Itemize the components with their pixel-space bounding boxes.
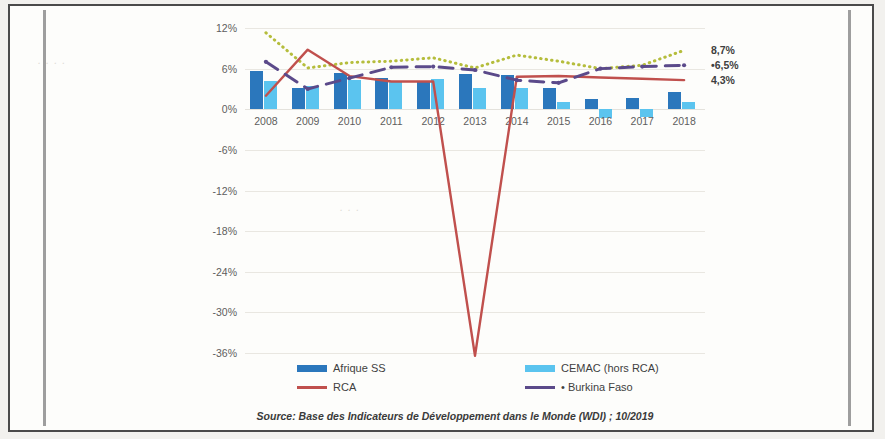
line-marker bbox=[515, 78, 519, 82]
y-axis-tick-label: -18% bbox=[212, 225, 237, 237]
y-axis-tick-label: -12% bbox=[212, 185, 237, 197]
line-marker bbox=[557, 81, 561, 85]
legend-item: CEMAC (hors RCA) bbox=[525, 362, 659, 374]
legend-item: • Burkina Faso bbox=[525, 381, 633, 393]
legend-item: RCA bbox=[297, 381, 356, 393]
data-label-tendance: 8,7% bbox=[711, 44, 735, 56]
y-axis-tick-label: -30% bbox=[212, 306, 237, 318]
line-marker bbox=[347, 76, 351, 80]
chart-legend: Afrique SSCEMAC (hors RCA)RCA• Burkina F… bbox=[297, 362, 727, 398]
data-label-rca: 4,3% bbox=[711, 74, 735, 86]
scanned-page-frame: . . . . . . . 12%6%0%-6%-12%-18%-24%-30%… bbox=[8, 4, 874, 432]
line-marker bbox=[389, 65, 393, 69]
y-axis-tick-label: 0% bbox=[222, 103, 237, 115]
y-axis-tick-label: -36% bbox=[212, 347, 237, 359]
page-binding-line-left bbox=[43, 10, 46, 426]
y-axis-tick-label: -24% bbox=[212, 266, 237, 278]
data-label-burkina-faso: •6,5% bbox=[711, 59, 739, 71]
line-marker bbox=[473, 68, 477, 72]
legend-swatch-bar bbox=[525, 365, 555, 372]
y-axis-tick-label: 6% bbox=[222, 63, 237, 75]
chart-line-series bbox=[245, 28, 705, 353]
line-marker bbox=[306, 87, 310, 91]
line-marker bbox=[264, 60, 268, 64]
chart-source-caption: Source: Base des Indicateurs de Développ… bbox=[60, 410, 850, 422]
line-marker bbox=[682, 63, 686, 67]
legend-label: • Burkina Faso bbox=[561, 381, 633, 393]
y-axis-tick-label: -6% bbox=[218, 144, 237, 156]
legend-item: Afrique SS bbox=[297, 362, 386, 374]
chart-figure: 12%6%0%-6%-12%-18%-24%-30%-36% 200820092… bbox=[60, 6, 850, 434]
legend-swatch-bar bbox=[297, 365, 327, 372]
legend-label: Afrique SS bbox=[333, 362, 386, 374]
y-axis-tick-label: 12% bbox=[216, 22, 237, 34]
line-marker bbox=[431, 64, 435, 68]
line-series-rca bbox=[266, 50, 684, 356]
legend-swatch-line bbox=[525, 386, 555, 389]
line-marker bbox=[598, 67, 602, 71]
legend-label: RCA bbox=[333, 381, 356, 393]
legend-label: CEMAC (hors RCA) bbox=[561, 362, 659, 374]
line-marker bbox=[640, 64, 644, 68]
legend-swatch-line bbox=[297, 386, 327, 389]
chart-plot-area: 12%6%0%-6%-12%-18%-24%-30%-36% 200820092… bbox=[245, 28, 705, 353]
